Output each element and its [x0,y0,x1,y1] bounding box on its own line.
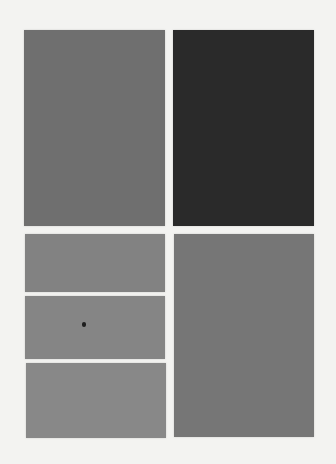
tile-mid-left-2 [25,296,165,359]
tile-bottom-right [174,234,314,437]
dark-spot [82,322,86,327]
tile-top-left [24,30,165,226]
tile-mid-left-3 [26,363,166,438]
tile-top-right [173,30,314,226]
tile-mid-left-1 [25,234,165,292]
